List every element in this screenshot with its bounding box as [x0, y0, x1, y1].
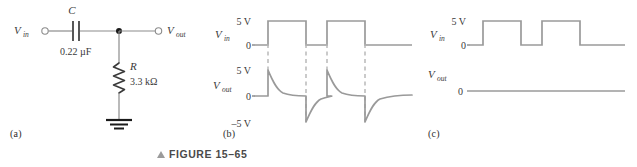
alignment-dashed-lines [268, 44, 365, 122]
vin-tick-5v-label: 5 V [236, 16, 251, 27]
vout-axis-label: V out [428, 68, 448, 83]
panel-c-waveform-svg: 5 V 0 V in 0 V out [420, 0, 637, 150]
svg-text:out: out [176, 30, 187, 39]
vout-label: V out [167, 24, 187, 39]
vin-terminal-icon [42, 28, 48, 34]
vin-tick-0-label: 0 [461, 40, 466, 51]
panel-a-label: (a) [10, 128, 22, 139]
svg-text:V: V [428, 68, 436, 80]
resistor-symbol-icon [114, 63, 125, 93]
svg-text:V: V [213, 79, 221, 91]
capacitor-value-label: 0.22 µF [60, 46, 92, 57]
svg-text:out: out [222, 85, 233, 94]
vout-differentiated-trace [255, 70, 412, 122]
capacitor-name-label: C [68, 4, 76, 16]
vout-tick-0-label: 0 [246, 91, 251, 102]
svg-text:V: V [14, 24, 22, 36]
panel-b-waveform-svg: 5 V 0 V in 5 V 0 –5 V [205, 0, 420, 150]
panel-a-circuit-diagram: V in V out C 0.22 µF R 3.3 kΩ (a) [0, 0, 205, 167]
svg-text:in: in [439, 34, 445, 43]
svg-text:V: V [167, 24, 175, 36]
vin-label: V in [14, 24, 29, 39]
panel-c-waveforms: 5 V 0 V in 0 V out (c) [420, 0, 637, 167]
vin-axis-label: V in [215, 28, 230, 43]
svg-text:V: V [430, 28, 438, 40]
svg-text:out: out [437, 74, 448, 83]
vout-terminal-icon [155, 28, 161, 34]
figure-15-65: V in V out C 0.22 µF R 3.3 kΩ (a) 5 V 0 [0, 0, 637, 167]
caption-text: FIGURE 15–65 [169, 148, 247, 160]
vin-tick-0-label: 0 [246, 40, 251, 51]
circuit-schematic-svg: V in V out C 0.22 µF R 3.3 kΩ [0, 0, 205, 150]
vout-axis-label: V out [213, 79, 233, 94]
panel-b-label: (b) [223, 128, 235, 139]
resistor-name-label: R [129, 60, 137, 72]
svg-text:V: V [215, 28, 223, 40]
svg-text:in: in [224, 34, 230, 43]
panel-b-waveforms: 5 V 0 V in 5 V 0 –5 V [205, 0, 420, 167]
vin-square-wave-trace [255, 21, 412, 45]
figure-caption: FIGURE 15–65 [157, 148, 247, 160]
vin-square-wave-trace [470, 21, 625, 45]
vin-tick-5v-label: 5 V [451, 16, 466, 27]
ground-symbol-icon [106, 120, 132, 129]
vout-tick-0-label: 0 [458, 86, 463, 97]
resistor-value-label: 3.3 kΩ [130, 76, 157, 87]
panel-c-label: (c) [428, 128, 440, 139]
vin-axis-label: V in [430, 28, 445, 43]
vout-tick-5v-label: 5 V [236, 65, 251, 76]
svg-text:in: in [23, 30, 29, 39]
caption-triangle-icon [157, 151, 165, 158]
